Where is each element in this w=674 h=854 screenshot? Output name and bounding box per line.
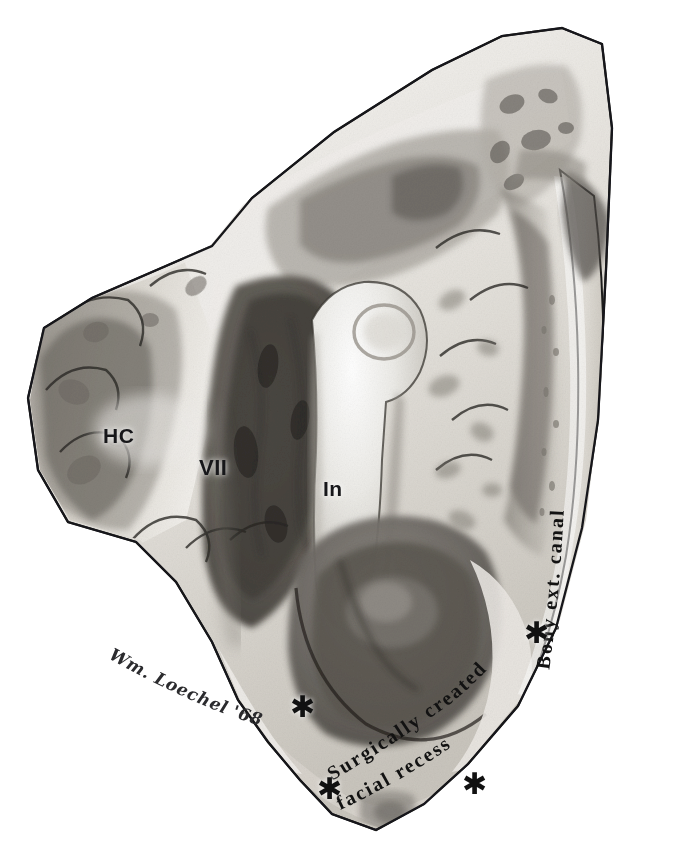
label-incus: In (323, 477, 343, 501)
asterisk-upper-left: ✱ (290, 692, 315, 722)
label-facial-nerve: VII (199, 455, 227, 481)
label-horizontal-canal: HC (103, 424, 134, 448)
illustration-canvas: Bony ext. canal Surgically created facia… (0, 0, 674, 854)
asterisk-upper-right: ✱ (524, 618, 549, 648)
asterisk-lower-right: ✱ (462, 769, 487, 799)
temporal-bone-drawing: Bony ext. canal Surgically created facia… (0, 0, 674, 854)
asterisk-lower-left: ✱ (317, 774, 342, 804)
